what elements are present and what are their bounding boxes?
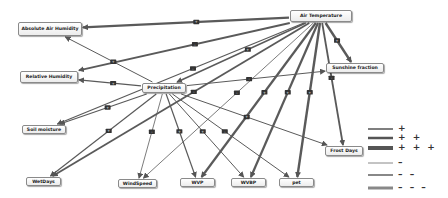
edge-air_temp-to-precip[interactable] [177, 23, 306, 82]
edge-sign-text: + [336, 39, 339, 43]
edges-layer [51, 18, 351, 178]
edge-sign-text: + [112, 82, 115, 86]
edge-air_temp-to-wvp[interactable] [202, 23, 316, 177]
node-rel-hum[interactable]: Relative Humidity [20, 71, 78, 83]
edge-precip-to-soil[interactable] [60, 94, 147, 124]
edge-precip-to-abs_hum[interactable] [65, 37, 152, 82]
edge-sign-text: + [246, 48, 249, 52]
node-soil[interactable]: Soil moisture [22, 125, 66, 134]
edge-air_temp-to-abs_hum[interactable] [83, 18, 289, 28]
node-wetdays[interactable]: WetDays [26, 177, 61, 186]
edge-precip-to-wetdays[interactable] [51, 94, 157, 176]
edge-precip-to-windspeed[interactable] [139, 94, 162, 178]
edge-precip-to-sunshine[interactable] [187, 71, 325, 85]
legend-sign-4: – [398, 158, 405, 167]
edge-sign-text: + [308, 91, 311, 95]
edge-air_temp-to-wetdays[interactable] [53, 23, 310, 176]
edge-air_temp-to-soil[interactable] [57, 23, 303, 124]
node-wvbp[interactable]: WVBP [231, 178, 266, 187]
edge-sign-text: + [245, 115, 248, 119]
legend-sign-6: – – – [398, 183, 428, 192]
node-air-temp[interactable]: Air Temperature [290, 10, 352, 22]
node-sunshine[interactable]: Sunshine fraction [326, 63, 384, 73]
legend-sign-2: + + [398, 133, 422, 142]
edge-sign-text: + [201, 130, 204, 134]
node-pet[interactable]: pet [279, 178, 314, 187]
edge-precip-to-rel_hum[interactable] [79, 80, 141, 86]
legend-sign-5: – – [398, 170, 416, 179]
edge-sign-text: + [178, 130, 181, 134]
edge-sign-text: + [106, 106, 109, 110]
legend-sign-3: + + + [398, 143, 437, 152]
node-frost[interactable]: Frost Days [325, 146, 363, 156]
node-wvp[interactable]: WVP [180, 178, 215, 187]
node-precip[interactable]: Precipitation [142, 83, 186, 93]
edge-sign-text: + [263, 91, 266, 95]
legend-lines [368, 129, 393, 188]
node-abs-hum[interactable]: Absolute Air Humidity [18, 22, 82, 36]
edge-sign-text: + [286, 91, 289, 95]
node-windspeed[interactable]: WindSpeed [118, 179, 157, 188]
edge-sign-text: + [195, 20, 198, 24]
edge-sign-text: + [112, 60, 115, 64]
edge-sign-text: + [107, 129, 110, 133]
